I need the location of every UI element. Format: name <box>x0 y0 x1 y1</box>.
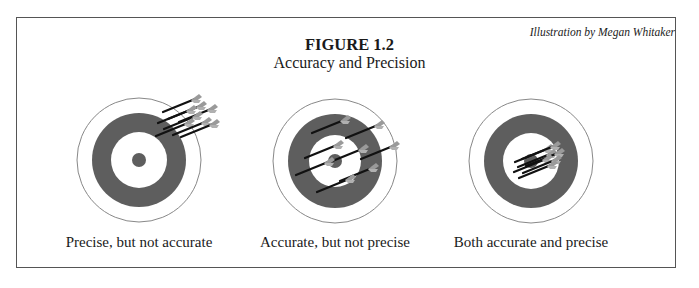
bullseye <box>132 153 146 167</box>
caption-target-2: Accurate, but not precise <box>235 234 435 251</box>
target-accurate-and-precise <box>469 99 593 223</box>
caption-target-3: Both accurate and precise <box>431 234 631 251</box>
target-accurate-not-precise <box>273 99 400 223</box>
caption-target-1: Precise, but not accurate <box>39 234 239 251</box>
target-precise-not-accurate <box>77 94 220 222</box>
